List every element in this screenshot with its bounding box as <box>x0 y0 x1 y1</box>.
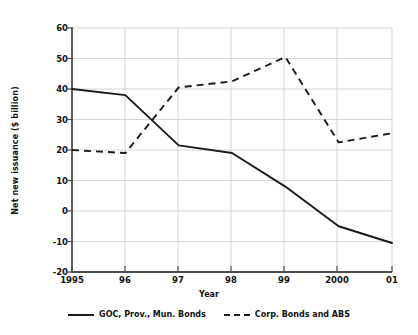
x-tick-label: 98 <box>225 276 237 285</box>
x-tick-label: 01 <box>386 276 398 285</box>
horizontal-gridlines <box>72 28 392 242</box>
series-line-goc-prov-mun-bonds <box>72 89 392 243</box>
line-chart-figure: Net new issuance ($ billion) 60 50 40 30… <box>0 0 418 335</box>
x-tick-label: 1995 <box>60 276 84 285</box>
series-line-corp-bonds-abs <box>72 57 392 153</box>
x-axis-title: Year <box>0 290 418 299</box>
legend-label: GOC, Prov., Mun. Bonds <box>99 310 206 319</box>
x-tick-label: 2000 <box>325 276 349 285</box>
x-tick-label: 99 <box>278 276 290 285</box>
legend-item-corp-bonds-abs: Corp. Bonds and ABS <box>224 310 350 319</box>
legend-item-goc-prov-mun-bonds: GOC, Prov., Mun. Bonds <box>68 310 206 319</box>
x-tick-label: 97 <box>172 276 184 285</box>
legend-line-swatch-dashed-icon <box>224 314 250 316</box>
legend-line-swatch-solid-icon <box>68 314 94 316</box>
x-tick-label: 96 <box>119 276 131 285</box>
legend-label: Corp. Bonds and ABS <box>255 310 350 319</box>
chart-legend: GOC, Prov., Mun. Bonds Corp. Bonds and A… <box>0 310 418 319</box>
